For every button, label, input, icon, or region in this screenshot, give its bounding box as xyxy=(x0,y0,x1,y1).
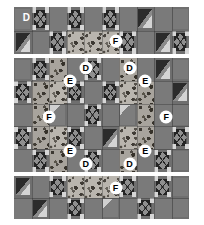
print-fabric-block xyxy=(32,81,50,104)
fabric-label-d: D xyxy=(123,158,136,171)
plain-block xyxy=(173,105,188,124)
plain-block xyxy=(103,60,118,79)
quilt-block xyxy=(172,104,190,127)
corner-square xyxy=(14,144,18,149)
quilt-block xyxy=(32,149,50,172)
fabric-label-e: E xyxy=(64,145,77,158)
corner-square xyxy=(154,150,158,155)
half-square-triangle xyxy=(16,178,30,195)
plain-block xyxy=(103,151,118,170)
quilt-block xyxy=(32,7,50,31)
quilt-block xyxy=(137,31,155,55)
triangle-wedge xyxy=(103,199,118,217)
corner-square xyxy=(32,7,36,12)
print-fabric-block xyxy=(32,126,50,149)
quilt-block xyxy=(172,198,190,220)
corner-square xyxy=(14,81,18,86)
quilt-block xyxy=(102,126,120,149)
quilt-block xyxy=(102,149,120,172)
quilt-block xyxy=(49,31,67,55)
quilt-diagram: DFDDEEFFEEDDF xyxy=(0,0,204,225)
print-fabric-block xyxy=(119,126,137,149)
fabric-label-d: D xyxy=(79,158,92,171)
plain-block xyxy=(173,9,188,29)
plain-block xyxy=(103,105,118,124)
center-body-panel: DDEEFFEEDD xyxy=(14,58,189,172)
plain-block xyxy=(138,32,153,52)
fabric-label-f: F xyxy=(109,181,122,194)
corner-square xyxy=(32,75,36,80)
quilt-block xyxy=(172,81,190,104)
fabric-label-f: F xyxy=(160,111,173,124)
quilt-block xyxy=(154,176,172,198)
quilt-block xyxy=(154,58,172,81)
corner-square xyxy=(49,48,53,53)
corner-square xyxy=(119,176,123,181)
corner-square xyxy=(172,127,176,132)
corner-square xyxy=(67,25,71,30)
quilt-block xyxy=(102,58,120,81)
plain-block xyxy=(120,199,135,217)
corner-square xyxy=(185,127,189,132)
corner-square xyxy=(49,31,53,36)
corner-square xyxy=(185,31,189,36)
triangle-wedge xyxy=(120,105,135,124)
plain-block xyxy=(15,60,30,79)
plain-block xyxy=(173,151,188,170)
plain-block xyxy=(15,199,30,217)
quilt-block xyxy=(102,104,120,127)
quilt-block xyxy=(32,58,50,81)
plain-block xyxy=(173,60,188,79)
quilt-block xyxy=(14,81,32,104)
plain-block xyxy=(155,128,170,147)
quilt-block xyxy=(172,7,190,31)
quilt-block xyxy=(84,126,102,149)
block-grid xyxy=(14,7,189,54)
plain-block xyxy=(155,199,170,217)
quilt-block xyxy=(172,176,190,198)
corner-square xyxy=(119,192,123,197)
corner-square xyxy=(84,150,88,155)
corner-square xyxy=(49,192,53,197)
plain-block xyxy=(50,9,65,29)
corner-square xyxy=(32,150,36,155)
quilt-block xyxy=(102,198,120,220)
block-grid xyxy=(14,176,189,219)
plain-block xyxy=(15,151,30,170)
plain-block xyxy=(155,9,170,29)
quilt-block xyxy=(14,126,32,149)
plain-block xyxy=(138,178,153,196)
print-fabric-block xyxy=(84,31,102,55)
quilt-block xyxy=(137,7,155,31)
quilt-block xyxy=(172,149,190,172)
plain-block xyxy=(120,9,135,29)
corner-square xyxy=(84,75,88,80)
plain-block xyxy=(15,105,30,124)
quilt-block xyxy=(67,104,85,127)
corner-square xyxy=(154,176,158,181)
quilt-block xyxy=(137,198,155,220)
quilt-block xyxy=(154,7,172,31)
quilt-block xyxy=(154,198,172,220)
quilt-block xyxy=(49,198,67,220)
plain-block xyxy=(173,199,188,217)
plain-block xyxy=(68,105,83,124)
quilt-block xyxy=(84,81,102,104)
plain-block xyxy=(173,178,188,196)
quilt-block xyxy=(102,7,120,31)
plain-block xyxy=(85,9,100,29)
corner-square xyxy=(84,121,88,126)
corner-square xyxy=(102,98,106,103)
corner-square xyxy=(14,98,18,103)
fabric-label-e: E xyxy=(139,145,152,158)
plain-block xyxy=(85,199,100,217)
corner-square xyxy=(102,81,106,86)
quilt-block xyxy=(172,31,190,55)
quilt-block xyxy=(84,104,102,127)
plain-block xyxy=(85,83,100,102)
quilt-block xyxy=(14,58,32,81)
quilt-block xyxy=(14,31,32,55)
quilt-block xyxy=(102,81,120,104)
half-square-triangle xyxy=(16,33,30,52)
corner-square xyxy=(32,58,36,63)
